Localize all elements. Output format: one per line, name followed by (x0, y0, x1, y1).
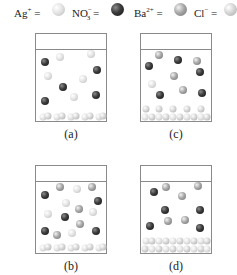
nitrate-ion-sphere-icon (93, 66, 101, 74)
ion-legend: Ag+ = NO−3 = Ba2+ = Cl− = (0, 0, 237, 28)
silver-ion-sphere-icon (62, 199, 70, 207)
legend-cl-label: Cl− = (194, 3, 217, 20)
barium-ion-sphere-icon (170, 72, 178, 80)
silver-ion-sphere-icon (87, 50, 95, 58)
precipitate-chloride-ion-sphere-icon (156, 106, 163, 113)
panel-label-b: (b) (64, 259, 78, 274)
nitrate-ion-sphere-icon (41, 97, 49, 105)
precipitate-chloride-ion-sphere-icon (59, 244, 66, 251)
chloride-ion-sphere-icon (224, 3, 237, 16)
nitrate-ion-sphere-icon (41, 58, 49, 66)
legend-ba-label: Ba2+ = (134, 3, 163, 20)
precipitate-chloride-ion-sphere-icon (177, 238, 184, 245)
precipitate-silver-ion-sphere-icon (156, 114, 163, 121)
nitrate-ion-sphere-icon (196, 224, 204, 232)
nitrate-ion-sphere-icon (145, 62, 153, 70)
barium-ion-sphere-icon (56, 183, 64, 191)
barium-ion-sphere-icon (164, 217, 172, 225)
precipitate-chloride-ion-sphere-icon (198, 106, 205, 113)
precipitate-silver-ion-sphere-icon (156, 238, 163, 245)
nitrate-ion-sphere-icon (174, 56, 182, 64)
precipitate-chloride-ion-sphere-icon (45, 244, 52, 251)
silver-ion-sphere-icon (44, 210, 52, 218)
precipitate-chloride-ion-sphere-icon (143, 106, 150, 113)
precipitate-chloride-ion-sphere-icon (100, 244, 107, 251)
barium-ion-sphere-icon (75, 205, 83, 213)
silver-ion-sphere-icon (148, 80, 156, 88)
precipitate-chloride-ion-sphere-icon (163, 114, 170, 121)
precipitate-chloride-ion-sphere-icon (177, 114, 184, 121)
silver-ion-sphere-icon (89, 208, 97, 216)
precipitate-silver-ion-sphere-icon (204, 246, 211, 253)
liquid-surface-line (36, 49, 106, 50)
silver-ion-sphere-icon (52, 3, 65, 16)
panel-label-d: (d) (169, 259, 183, 274)
precipitate-chloride-ion-sphere-icon (184, 106, 191, 113)
precipitate-chloride-ion-sphere-icon (73, 113, 80, 120)
nitrate-ion-sphere-icon (196, 68, 204, 76)
nitrate-ion-sphere-icon (111, 3, 124, 16)
precipitate-silver-ion-sphere-icon (184, 114, 191, 121)
precipitate-chloride-ion-sphere-icon (156, 246, 163, 253)
nitrate-ion-sphere-icon (161, 206, 169, 214)
nitrate-ion-sphere-icon (61, 213, 69, 221)
precipitate-silver-ion-sphere-icon (184, 238, 191, 245)
panel-label-c: (c) (169, 127, 182, 142)
precipitate-chloride-ion-sphere-icon (191, 114, 198, 121)
barium-ion-sphere-icon (174, 3, 187, 16)
nitrate-ion-sphere-icon (59, 83, 67, 91)
precipitate-silver-ion-sphere-icon (191, 246, 198, 253)
precipitate-chloride-ion-sphere-icon (59, 113, 66, 120)
silver-ion-sphere-icon (68, 229, 76, 237)
precipitate-chloride-ion-sphere-icon (45, 113, 52, 120)
silver-ion-sphere-icon (70, 93, 78, 101)
barium-ion-sphere-icon (76, 220, 84, 228)
barium-ion-sphere-icon (162, 183, 170, 191)
legend-no3-label: NO−3 = (72, 3, 99, 25)
nitrate-ion-sphere-icon (156, 91, 164, 99)
precipitate-chloride-ion-sphere-icon (184, 246, 191, 253)
liquid-surface-line (36, 181, 106, 182)
nitrate-ion-sphere-icon (150, 188, 158, 196)
barium-ion-sphere-icon (194, 182, 202, 190)
precipitate-chloride-ion-sphere-icon (87, 113, 94, 120)
precipitate-silver-ion-sphere-icon (170, 114, 177, 121)
precipitate-chloride-ion-sphere-icon (87, 244, 94, 251)
nitrate-ion-sphere-icon (92, 227, 100, 235)
barium-ion-sphere-icon (181, 216, 189, 224)
barium-ion-sphere-icon (178, 192, 186, 200)
silver-ion-sphere-icon (79, 75, 87, 83)
precipitate-chloride-ion-sphere-icon (170, 106, 177, 113)
barium-ion-sphere-icon (179, 86, 187, 94)
precipitate-chloride-ion-sphere-icon (73, 244, 80, 251)
liquid-surface-line (141, 49, 211, 50)
silver-ion-sphere-icon (44, 72, 52, 80)
nitrate-ion-sphere-icon (196, 206, 204, 214)
precipitate-chloride-ion-sphere-icon (191, 238, 198, 245)
silver-ion-sphere-icon (73, 185, 81, 193)
precipitate-chloride-ion-sphere-icon (149, 238, 156, 245)
barium-ion-sphere-icon (53, 231, 61, 239)
barium-ion-sphere-icon (88, 183, 96, 191)
nitrate-ion-sphere-icon (198, 89, 206, 97)
nitrate-ion-sphere-icon (146, 222, 154, 230)
silver-ion-sphere-icon (56, 53, 64, 61)
precipitate-silver-ion-sphere-icon (142, 114, 149, 121)
barium-ion-sphere-icon (193, 57, 201, 65)
precipitate-silver-ion-sphere-icon (149, 246, 156, 253)
nitrate-ion-sphere-icon (92, 91, 100, 99)
precipitate-silver-ion-sphere-icon (163, 246, 170, 253)
precipitate-silver-ion-sphere-icon (170, 238, 177, 245)
precipitate-silver-ion-sphere-icon (177, 246, 184, 253)
precipitate-chloride-ion-sphere-icon (100, 113, 107, 120)
nitrate-ion-sphere-icon (41, 227, 49, 235)
precipitate-chloride-ion-sphere-icon (170, 246, 177, 253)
barium-ion-sphere-icon (155, 51, 163, 59)
precipitate-chloride-ion-sphere-icon (142, 246, 149, 253)
nitrate-ion-sphere-icon (41, 191, 49, 199)
liquid-surface-line (141, 181, 211, 182)
precipitate-chloride-ion-sphere-icon (163, 238, 170, 245)
precipitate-chloride-ion-sphere-icon (204, 238, 211, 245)
precipitate-chloride-ion-sphere-icon (204, 114, 211, 121)
legend-ag-label: Ag+ = (14, 3, 40, 20)
